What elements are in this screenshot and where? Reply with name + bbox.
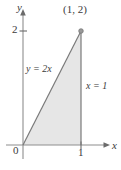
x-tick-label-1: 1	[78, 147, 84, 158]
y-axis-label: y	[17, 2, 22, 13]
point-1-2-marker	[79, 29, 84, 34]
origin-label: 0	[13, 145, 19, 156]
x-axis-arrowhead	[104, 142, 111, 147]
vertical-line-equation-label: x = 1	[86, 81, 107, 91]
point-coordinate-label: (1, 2)	[63, 4, 87, 15]
x-axis-label: x	[112, 140, 117, 151]
y-tick-label-2: 2	[12, 24, 18, 35]
figure-container: y x 2 1 0 (1, 2) y = 2x x = 1	[0, 0, 121, 170]
line-equation-label: y = 2x	[26, 64, 52, 74]
